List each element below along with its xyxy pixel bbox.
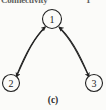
node-3[interactable]: 3 — [86, 75, 103, 92]
node-1[interactable]: 1 — [43, 10, 62, 29]
edge-1-to-3 — [59, 28, 89, 77]
edge-3-to-1 — [59, 27, 89, 76]
figure-panel-c: Connectivity 1 1 2 — [0, 0, 106, 110]
edge-2-to-1 — [17, 27, 46, 76]
edge-group-1-3 — [59, 27, 89, 77]
edge-group-1-2 — [16, 27, 45, 78]
panel-caption: (c) — [0, 95, 106, 105]
node-1-label: 1 — [50, 14, 55, 25]
node-2[interactable]: 2 — [3, 75, 20, 92]
node-2-label: 2 — [9, 78, 14, 89]
edge-1-to-2 — [16, 28, 45, 78]
connectivity-graph: 1 2 3 — [0, 0, 106, 110]
node-3-label: 3 — [92, 78, 97, 89]
